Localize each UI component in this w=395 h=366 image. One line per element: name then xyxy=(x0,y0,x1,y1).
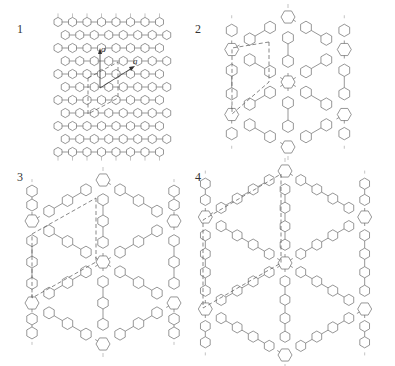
benzene-ring-icon xyxy=(112,17,120,26)
benzene-ring-icon xyxy=(296,340,306,351)
network-structure-3 xyxy=(0,170,195,366)
benzene-ring-icon xyxy=(321,54,332,66)
benzene-ring-icon xyxy=(115,184,125,196)
benzene-ring-icon xyxy=(265,21,276,33)
benzene-ring-icon xyxy=(152,205,162,217)
bond-line xyxy=(37,217,40,219)
benzene-ring-icon xyxy=(81,246,91,258)
bond-line xyxy=(293,78,296,80)
bond-line xyxy=(242,330,248,334)
benzene-ring-icon xyxy=(69,95,77,104)
benzene-ring-icon xyxy=(169,199,179,211)
benzene-ring-icon xyxy=(200,285,210,296)
benzene-ring-icon xyxy=(339,127,350,139)
benzene-ring-icon xyxy=(264,340,274,351)
bond-line xyxy=(280,85,283,87)
benzene-ring-icon xyxy=(296,175,306,186)
bond-line xyxy=(338,321,344,325)
panel-2: 2 xyxy=(195,0,395,170)
benzene-ring-icon xyxy=(27,327,37,339)
bond-line xyxy=(73,275,81,280)
benzene-ring-icon xyxy=(200,267,210,278)
bond-line xyxy=(290,259,293,261)
benzene-ring-icon xyxy=(321,33,332,45)
bond-line xyxy=(108,258,111,260)
benzene-ring-icon xyxy=(360,230,370,241)
benzene-ring-icon xyxy=(244,54,255,66)
benzene-ring-icon xyxy=(198,303,212,315)
benzene-ring-icon xyxy=(248,184,258,195)
bond-line xyxy=(280,78,283,80)
benzene-ring-icon xyxy=(344,313,354,324)
benzene-ring-icon xyxy=(321,98,332,110)
benzene-ring-icon xyxy=(152,307,162,319)
benzene-ring-icon xyxy=(90,56,98,65)
bond-line xyxy=(95,258,98,260)
benzene-ring-icon xyxy=(280,202,290,213)
bond-line xyxy=(277,351,280,353)
benzene-ring-icon xyxy=(163,108,171,117)
bond-line xyxy=(108,183,111,185)
benzene-ring-icon xyxy=(141,17,149,26)
benzene-ring-icon xyxy=(62,277,72,289)
benzene-ring-icon xyxy=(54,147,62,156)
benzene-ring-icon xyxy=(278,257,292,269)
benzene-ring-icon xyxy=(198,211,212,223)
benzene-ring-icon xyxy=(27,199,37,211)
benzene-ring-icon xyxy=(200,230,210,241)
benzene-ring-icon xyxy=(232,230,242,241)
benzene-ring-icon xyxy=(98,121,106,130)
benzene-ring-icon xyxy=(148,108,156,117)
bond-line xyxy=(322,192,328,196)
benzene-ring-icon xyxy=(216,202,226,213)
benzene-ring-icon xyxy=(232,322,242,333)
bond-line xyxy=(311,63,321,69)
benzene-ring-icon xyxy=(163,82,171,91)
benzene-ring-icon xyxy=(81,266,91,278)
benzene-ring-icon xyxy=(358,211,372,223)
benzene-ring-icon xyxy=(98,297,108,309)
benzene-ring-icon xyxy=(69,121,77,130)
benzene-ring-icon xyxy=(44,205,54,217)
benzene-ring-icon xyxy=(148,82,156,91)
benzene-ring-icon xyxy=(61,30,69,39)
benzene-ring-icon xyxy=(81,328,91,340)
benzene-ring-icon xyxy=(339,24,350,36)
benzene-ring-icon xyxy=(127,147,135,156)
bond-line xyxy=(311,95,321,101)
panel-3: 3 xyxy=(0,170,195,366)
benzene-ring-icon xyxy=(98,276,108,288)
benzene-ring-icon xyxy=(69,147,77,156)
bond-line xyxy=(108,265,111,267)
benzene-ring-icon xyxy=(248,331,258,342)
unit-cell-dashed-line xyxy=(32,198,96,298)
benzene-ring-icon xyxy=(360,194,370,205)
benzene-ring-icon xyxy=(344,202,354,213)
benzene-ring-icon xyxy=(344,221,354,232)
bond-line xyxy=(338,293,344,297)
benzene-ring-icon xyxy=(54,69,62,78)
benzene-ring-icon xyxy=(127,17,135,26)
benzene-ring-icon xyxy=(98,95,106,104)
benzene-ring-icon xyxy=(98,17,106,26)
benzene-ring-icon xyxy=(321,119,332,131)
bond-line xyxy=(125,327,133,332)
benzene-ring-icon xyxy=(296,267,306,278)
benzene-ring-icon xyxy=(44,307,54,319)
benzene-ring-icon xyxy=(339,64,350,76)
benzene-ring-icon xyxy=(280,294,290,305)
panel-1: 1 aa xyxy=(0,0,195,170)
benzene-ring-icon xyxy=(98,147,106,156)
bond-line xyxy=(166,306,169,308)
benzene-ring-icon xyxy=(169,235,179,247)
benzene-ring-icon xyxy=(281,76,295,88)
benzene-ring-icon xyxy=(312,184,322,195)
benzene-ring-icon xyxy=(54,17,62,26)
bond-line xyxy=(144,316,152,321)
benzene-ring-icon xyxy=(127,43,135,52)
bond-line xyxy=(338,201,344,205)
benzene-ring-icon xyxy=(167,215,181,227)
benzene-ring-icon xyxy=(148,134,156,143)
benzene-ring-icon xyxy=(119,108,127,117)
benzene-ring-icon xyxy=(200,194,210,205)
